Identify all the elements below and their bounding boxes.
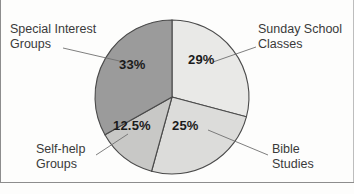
callout-label-special-interest: Special Interest Groups (10, 22, 96, 52)
callout-label-sunday-school-line1: Sunday School (258, 22, 342, 37)
callout-label-bible-studies-line1: Bible (272, 142, 314, 157)
slice-value-bible-studies: 25% (172, 118, 199, 133)
callout-label-sunday-school-line2: Classes (258, 37, 342, 52)
callout-label-self-help: Self-help Groups (36, 142, 85, 172)
callout-label-special-interest-line1: Special Interest (10, 22, 96, 37)
pie-slices (95, 20, 249, 174)
callout-label-special-interest-line2: Groups (10, 37, 96, 52)
pie-chart-figure: 29% 33% 12.5% 25% Special Interest Group… (0, 0, 354, 194)
callout-label-self-help-line2: Groups (36, 157, 85, 172)
slice-value-special-interest: 33% (119, 57, 146, 72)
callout-label-sunday-school: Sunday School Classes (258, 22, 342, 52)
slice-value-self-help: 12.5% (113, 118, 151, 133)
slice-value-sunday-school: 29% (188, 52, 215, 67)
callout-label-bible-studies: Bible Studies (272, 142, 314, 172)
callout-label-bible-studies-line2: Studies (272, 157, 314, 172)
callout-label-self-help-line1: Self-help (36, 142, 85, 157)
